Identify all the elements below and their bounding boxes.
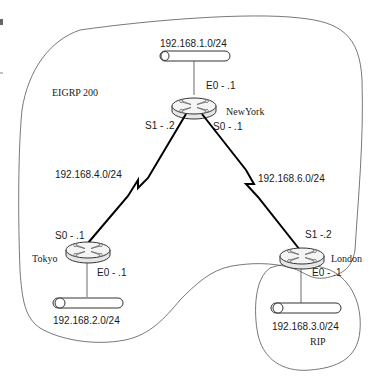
london-e0-label: E0 - .1 (312, 267, 342, 278)
ethernet-cap-icon (55, 298, 65, 308)
router-london[interactable] (280, 248, 324, 269)
tokyo-s0-label: S0 - .1 (55, 230, 85, 241)
london-lan-segment[interactable] (271, 303, 341, 313)
router-newyork[interactable] (172, 98, 216, 119)
rip-domain-label: RIP (310, 336, 326, 347)
network-diagram: EIGRP 200 RIP 192.168.1.0/24 E0 - .1 New… (0, 0, 392, 386)
ethernet-cap-icon (273, 303, 283, 313)
tokyo-e0-label: E0 - .1 (97, 267, 127, 278)
tokyo-lan-segment[interactable] (53, 298, 123, 308)
rip-domain-boundary (256, 264, 361, 371)
scan-mark (0, 19, 3, 25)
ethernet-cap-icon (161, 52, 169, 61)
ny-s1-label: S1 - .2 (145, 120, 175, 131)
london-router-name: London (331, 253, 362, 264)
ny-lan-segment[interactable] (160, 51, 230, 61)
router-tokyo[interactable] (66, 242, 110, 263)
ny-s0-label: S0 - .1 (213, 121, 243, 132)
tokyo-router-name: Tokyo (32, 253, 57, 264)
ny-london-network-label: 192.168.6.0/24 (258, 173, 325, 184)
london-lan-network-label: 192.168.3.0/24 (272, 321, 339, 332)
ethernet-segment-icon (160, 51, 230, 61)
eigrp-domain-label: EIGRP 200 (52, 87, 98, 98)
ny-tokyo-network-label: 192.168.4.0/24 (55, 169, 122, 180)
tokyo-lan-network-label: 192.168.2.0/24 (53, 315, 120, 326)
london-s1-label: S1 -.2 (305, 229, 332, 240)
ny-lan-network-label: 192.168.1.0/24 (160, 38, 227, 49)
ny-e0-label: E0 - .1 (206, 80, 236, 91)
ny-router-name: NewYork (226, 106, 264, 117)
